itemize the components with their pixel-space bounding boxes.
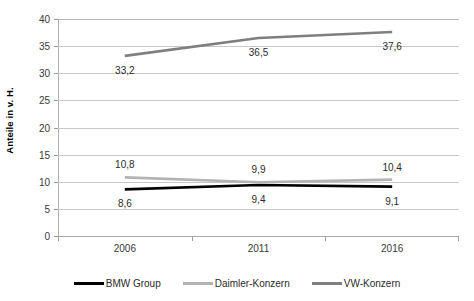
legend-label: Daimler-Konzern bbox=[215, 278, 290, 289]
legend-line-swatch bbox=[74, 282, 104, 285]
x-axis-tick-label: 2016 bbox=[381, 243, 403, 254]
legend-item[interactable]: Daimler-Konzern bbox=[183, 278, 290, 289]
legend-item[interactable]: VW-Konzern bbox=[312, 278, 401, 289]
y-axis-tick-label: 5 bbox=[44, 203, 50, 214]
x-axis-tick-labels: 200620112016 bbox=[58, 243, 459, 259]
y-axis-tick-label: 40 bbox=[39, 14, 50, 25]
y-axis-tick-label: 15 bbox=[39, 149, 50, 160]
y-axis-title-label: Anteile in v. H. bbox=[4, 87, 15, 153]
x-axis-tick-mark bbox=[58, 237, 59, 241]
y-axis-tick-labels: 4035302520151050 bbox=[22, 19, 50, 236]
data-point-label: 9,9 bbox=[252, 164, 266, 175]
data-point-label: 9,4 bbox=[252, 194, 266, 205]
data-point-label: 36,5 bbox=[249, 46, 268, 57]
legend-line-swatch bbox=[183, 282, 213, 285]
y-axis-tick-label: 35 bbox=[39, 41, 50, 52]
x-axis-tick-mark bbox=[458, 237, 459, 241]
y-axis-tick-label: 0 bbox=[44, 231, 50, 242]
y-axis-tick-label: 20 bbox=[39, 122, 50, 133]
chart-legend: BMW GroupDaimler-KonzernVW-Konzern bbox=[0, 273, 474, 293]
series-line bbox=[125, 185, 392, 189]
data-point-label: 33,2 bbox=[115, 64, 134, 75]
data-point-label: 37,6 bbox=[382, 41, 401, 52]
legend-label: BMW Group bbox=[106, 278, 161, 289]
legend-line-swatch bbox=[312, 282, 342, 285]
data-point-label: 10,8 bbox=[115, 159, 134, 170]
y-axis-tick-label: 10 bbox=[39, 176, 50, 187]
x-axis-tick-label: 2006 bbox=[114, 243, 136, 254]
series-line bbox=[125, 177, 392, 182]
data-point-label: 9,1 bbox=[385, 195, 399, 206]
x-axis-tick-marks bbox=[58, 237, 459, 242]
x-axis-tick-mark bbox=[192, 237, 193, 241]
legend-item[interactable]: BMW Group bbox=[74, 278, 161, 289]
x-axis-tick-label: 2011 bbox=[248, 243, 270, 254]
x-axis-tick-mark bbox=[325, 237, 326, 241]
data-point-label: 10,4 bbox=[382, 161, 401, 172]
legend-label: VW-Konzern bbox=[344, 278, 401, 289]
data-point-label: 8,6 bbox=[118, 198, 132, 209]
y-axis-tick-label: 30 bbox=[39, 68, 50, 79]
line-chart: Anteile in v. H. 4035302520151050 200620… bbox=[0, 0, 474, 301]
y-axis-tick-label: 25 bbox=[39, 95, 50, 106]
y-axis-title: Anteile in v. H. bbox=[0, 0, 18, 240]
